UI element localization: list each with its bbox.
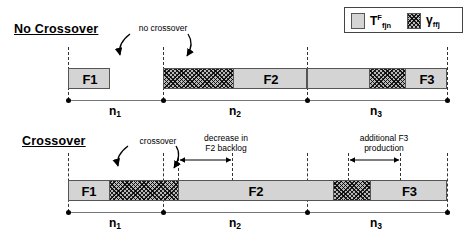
bar-top-f3: F3 (307, 68, 447, 89)
bar-top-f3-segment-light-lead (308, 69, 369, 88)
axis-label-bottom-n2-sub: 2 (236, 221, 241, 231)
annotation-no-crossover: no crossover (118, 23, 208, 33)
guide-line-bracket-decrease-right (232, 153, 233, 181)
bar-top-f3-segment-hatched (369, 69, 406, 88)
annotation-additional-f3-production: additional F3production (336, 133, 432, 153)
legend-sub-fjn: fjn (382, 21, 391, 30)
axis-label-top-n1-sub: 1 (116, 109, 121, 119)
bar-bottom-segment-f1-hatched (109, 181, 179, 200)
axis-label-top-n2: n2 (205, 104, 265, 118)
axis-dot-top-3 (305, 98, 310, 103)
bar-bottom-segment-f1-light (69, 181, 109, 200)
guide-line-top-4 (447, 47, 448, 100)
bar-bottom-segment-f3-light (371, 181, 446, 200)
axis-label-top-n1: n1 (85, 104, 145, 118)
axis-line-top (68, 100, 447, 101)
axis-dot-bottom-3 (305, 210, 310, 215)
legend-sub-ffj: ffj (433, 20, 440, 29)
legend-box: TFfjn γffj (344, 7, 463, 33)
axis-label-bottom-n3: n3 (346, 216, 406, 230)
axis-label-bottom-n3-sub: 3 (377, 221, 382, 231)
bar-top-f1: F1 (68, 68, 110, 89)
legend-label-gamma: γffj (426, 13, 440, 29)
axis-dot-top-2 (161, 98, 166, 103)
bar-top-f2-segment-hatched (164, 69, 234, 88)
legend-swatch-light-gray-box (351, 13, 365, 29)
axis-label-bottom-n1-sub: 1 (116, 221, 121, 231)
axis-dot-top-4 (445, 98, 450, 103)
guide-line-bracket-additional-right (400, 153, 401, 181)
arrow-crossover-left (117, 146, 128, 166)
axis-line-bottom (68, 212, 447, 213)
arrow-no-crossover-left (119, 34, 130, 55)
legend-symbol-gamma: γ (426, 13, 433, 27)
legend-swatch-hatched-box (407, 13, 421, 29)
guide-line-bracket-decrease-left (178, 153, 179, 181)
panel-title-crossover: Crossover (22, 134, 86, 148)
bar-top-f2-segment-light (234, 69, 306, 88)
bar-top-f1-segment-light (69, 69, 109, 88)
bar-bottom: F1 F2 F3 (68, 180, 447, 201)
axis-dot-bottom-2 (161, 210, 166, 215)
axis-dot-bottom-1 (66, 210, 71, 215)
guide-line-bottom-4 (447, 153, 448, 212)
panel-title-no-crossover: No Crossover (14, 22, 98, 36)
guide-line-bracket-additional-left (348, 153, 349, 181)
axis-label-bottom-n1: n1 (85, 216, 145, 230)
bar-top-f3-segment-light (406, 69, 446, 88)
annotation-decrease-f2-backlog: decrease inF2 backlog (178, 133, 274, 153)
bar-bottom-segment-f2-light (179, 181, 333, 200)
annotation-decrease-line1: decrease in (204, 133, 248, 143)
bar-top-f2: F2 (163, 68, 307, 89)
axis-label-top-n3: n3 (346, 104, 406, 118)
axis-dot-bottom-4 (445, 210, 450, 215)
legend-label-tfjn: TFfjn (370, 13, 391, 30)
axis-dot-top-1 (66, 98, 71, 103)
axis-label-bottom-n2: n2 (205, 216, 265, 230)
diagram-root: TFfjn γffj No Crossover no crossover F1 … (0, 0, 467, 234)
annotation-decrease-line2: F2 backlog (205, 143, 247, 153)
bar-bottom-segment-f3-hatched (333, 181, 371, 200)
axis-label-top-n3-sub: 3 (377, 109, 382, 119)
arrow-no-crossover-right (187, 34, 191, 56)
annotation-additional-line2: production (364, 143, 404, 153)
annotation-additional-line1: additional F3 (360, 133, 409, 143)
axis-label-top-n2-sub: 2 (236, 109, 241, 119)
